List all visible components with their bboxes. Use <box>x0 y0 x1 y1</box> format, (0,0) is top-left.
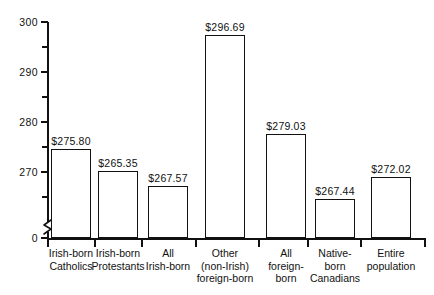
bar-value-irish-born-protestants: $265.35 <box>83 157 153 169</box>
y-tick-265 <box>42 196 48 198</box>
bar-entire-population[interactable] <box>371 177 411 238</box>
x-tick-7 <box>424 238 426 247</box>
x-tick-1 <box>94 238 96 247</box>
cat-line: population <box>346 260 434 273</box>
x-tick-6 <box>360 238 362 247</box>
x-tick-5 <box>307 238 309 247</box>
bar-value-all-foreign-born: $279.03 <box>251 120 321 132</box>
y-tick-295 <box>42 46 48 48</box>
y-tick-label-zero: 0 <box>8 232 38 244</box>
x-category-label-entire-population: Entire population <box>346 247 434 272</box>
bar-value-all-irish-born: $267.57 <box>133 172 203 184</box>
y-tick-290 <box>41 71 48 73</box>
x-tick-2 <box>141 238 143 247</box>
y-tick-285 <box>42 96 48 98</box>
bar-chart: 300 290 280 270 0 <box>0 0 434 295</box>
x-axis-line <box>47 238 425 240</box>
x-tick-3 <box>195 238 197 247</box>
bar-value-other-non-irish-foreign-born: $296.69 <box>190 21 260 33</box>
bar-value-entire-population: $272.02 <box>356 163 426 175</box>
bar-value-native-born-canadians: $267.44 <box>300 185 370 197</box>
y-tick-label-290: 290 <box>8 66 38 78</box>
x-tick-0 <box>47 238 49 247</box>
cat-line: Canadians <box>290 272 380 285</box>
bar-other-non-irish-foreign-born[interactable] <box>205 35 245 238</box>
bar-native-born-canadians[interactable] <box>315 199 355 238</box>
bar-all-irish-born[interactable] <box>148 186 188 238</box>
x-tick-4 <box>258 238 260 247</box>
cat-line: Entire <box>346 247 434 260</box>
plot-area: 300 290 280 270 0 <box>0 0 434 295</box>
y-tick-label-280: 280 <box>8 116 38 128</box>
y-tick-280 <box>41 121 48 123</box>
y-tick-270 <box>41 171 48 173</box>
y-tick-label-300: 300 <box>8 16 38 28</box>
y-tick-300 <box>41 21 48 23</box>
bar-value-irish-born-catholics: $275.80 <box>36 135 106 147</box>
bar-irish-born-protestants[interactable] <box>98 171 138 238</box>
y-tick-label-270: 270 <box>8 166 38 178</box>
